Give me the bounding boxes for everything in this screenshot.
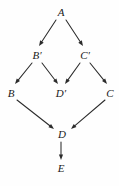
node-label-D: D bbox=[58, 129, 66, 140]
dag-diagram: AB′C′BD′CDE bbox=[0, 0, 119, 186]
edge-shaft bbox=[42, 63, 55, 80]
edge-A-to-Bp bbox=[39, 20, 56, 46]
node-label-Cp: C′ bbox=[80, 50, 90, 61]
node-label-A: A bbox=[58, 7, 65, 18]
node-label-B: B bbox=[8, 88, 15, 99]
node-label-Bp: B′ bbox=[32, 50, 41, 61]
edge-A-to-Cp bbox=[66, 20, 83, 46]
arrow-head-icon bbox=[65, 78, 70, 84]
arrow-head-icon bbox=[78, 40, 83, 46]
edge-shaft bbox=[74, 100, 105, 126]
edge-shaft bbox=[41, 20, 56, 42]
arrow-head-icon bbox=[39, 40, 44, 46]
edge-shaft bbox=[66, 20, 81, 42]
edge-D-to-E bbox=[59, 142, 63, 160]
edge-shaft bbox=[17, 100, 51, 126]
node-label-C: C bbox=[106, 88, 113, 99]
node-label-Dp: D′ bbox=[56, 88, 66, 99]
node-label-E: E bbox=[58, 163, 65, 174]
edge-Bp-to-Dp bbox=[42, 63, 58, 84]
edge-shaft bbox=[90, 63, 104, 81]
edge-shaft bbox=[18, 63, 32, 81]
edge-shaft bbox=[68, 63, 80, 80]
edge-Cp-to-Dp bbox=[65, 63, 80, 84]
edge-C-to-D bbox=[71, 100, 105, 129]
edge-Bp-to-B bbox=[15, 63, 32, 84]
edge-Cp-to-C bbox=[90, 63, 107, 84]
arrow-head-icon bbox=[59, 155, 63, 160]
edge-B-to-D bbox=[17, 100, 54, 129]
